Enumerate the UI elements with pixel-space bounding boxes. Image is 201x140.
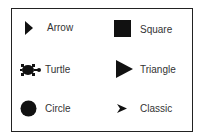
square-icon bbox=[114, 20, 131, 37]
shape-label-arrow: Arrow bbox=[47, 22, 73, 34]
shape-label-turtle: Turtle bbox=[45, 64, 70, 76]
classic-icon bbox=[117, 104, 127, 113]
shape-option-square[interactable]: Square bbox=[112, 18, 190, 40]
triangle-icon bbox=[116, 60, 134, 78]
shape-option-turtle[interactable]: Turtle bbox=[18, 60, 93, 80]
shape-label-triangle: Triangle bbox=[140, 64, 176, 76]
circle-icon bbox=[20, 100, 37, 117]
turtle-icon bbox=[20, 62, 42, 78]
shape-label-circle: Circle bbox=[45, 103, 71, 115]
shape-option-classic[interactable]: Classic bbox=[112, 100, 190, 120]
shape-option-circle[interactable]: Circle bbox=[18, 98, 93, 120]
arrow-icon bbox=[25, 21, 35, 35]
shape-option-arrow[interactable]: Arrow bbox=[22, 18, 92, 38]
shape-label-square: Square bbox=[140, 24, 172, 36]
shape-option-triangle[interactable]: Triangle bbox=[112, 58, 190, 80]
shape-label-classic: Classic bbox=[140, 103, 172, 115]
